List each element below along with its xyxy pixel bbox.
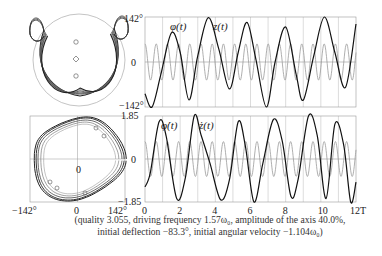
phase-xtick-min: −142° [12,205,37,216]
velocity-time-plot: 1.85 0 −1.85 φ̇(t) ż(t) 024681012T [118,110,366,216]
caption-line-2: initial deflection −83.3°, initial angul… [40,226,380,238]
phi-label: φ(t) [170,20,187,33]
marker-bottom [74,74,78,78]
phase-marker [48,180,52,184]
phidot-label: φ̇(t) [161,119,178,132]
phase-center-label: 0 [76,164,81,175]
zdot-label: ż(t) [198,119,214,132]
vel-ytick-zero: 0 [131,154,136,165]
phase-portrait: 0 −142° 0 142° [12,116,127,216]
angle-ytick-max: 142° [124,13,143,24]
vel-ytick-max: 1.85 [121,110,139,121]
z-label: z(t) [212,20,228,33]
caption-line-1: (quality 3.055, driving frequency 1.57ω₀… [40,214,380,226]
vel-ytick-min: −1.85 [118,196,141,207]
angle-time-plot: 142° 0 −142° φ(t) z(t) [119,13,356,111]
marker-center [73,56,79,62]
trajectory-diagram [30,14,128,106]
marker-top [74,40,78,44]
angle-ytick-zero: 0 [131,57,136,68]
trajectory-curves [30,16,128,96]
phase-marker [55,186,59,190]
